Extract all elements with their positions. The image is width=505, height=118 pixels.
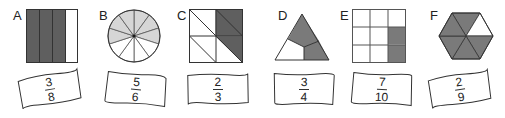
- figure-d: D 34: [264, 0, 348, 118]
- fraction-card: 56: [103, 69, 170, 108]
- triangle-parts-shape: [274, 13, 330, 61]
- grid-shape: [352, 9, 406, 63]
- figure-letter: A: [13, 8, 22, 23]
- numerator: 3: [272, 75, 336, 88]
- figure-b: B 56: [90, 0, 174, 118]
- fraction-card: 23: [186, 71, 251, 106]
- circle-sectors-shape: [107, 9, 161, 63]
- figure-letter: E: [340, 8, 349, 23]
- figure-f: F 29: [420, 0, 504, 118]
- hexagon-triangles-shape: [438, 12, 494, 60]
- figure-a: A 38: [0, 0, 84, 118]
- numerator: 2: [186, 75, 250, 88]
- fraction-card: 34: [272, 71, 337, 106]
- figure-letter: F: [430, 8, 438, 23]
- denominator: 4: [272, 90, 336, 103]
- fraction-card: 710: [349, 70, 415, 107]
- figure-c: C 23: [174, 0, 258, 118]
- fraction-card: 29: [426, 67, 495, 111]
- figure-letter: C: [177, 8, 186, 23]
- square-triangles-shape: [189, 9, 243, 63]
- denominator: 3: [186, 90, 250, 103]
- square-strips-shape: [26, 9, 78, 63]
- fraction-card: 38: [16, 67, 85, 112]
- figure-e: E 710: [340, 0, 424, 118]
- numerator: 7: [350, 74, 415, 89]
